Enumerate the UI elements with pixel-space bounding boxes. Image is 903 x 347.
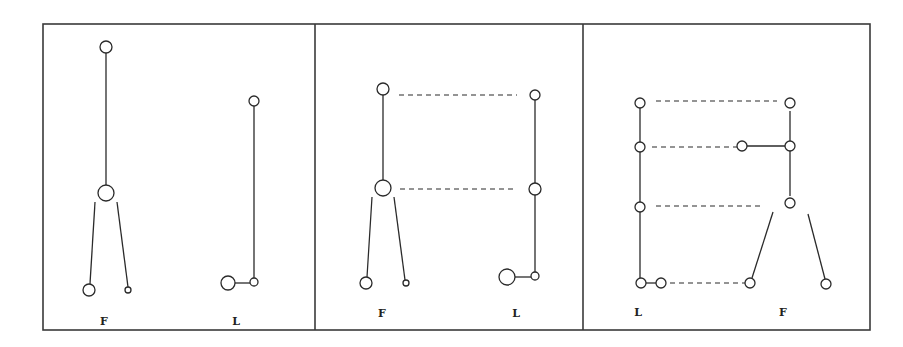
joint-node-circle [403, 280, 409, 286]
figure-label-l: L [512, 307, 520, 320]
link-line [90, 202, 95, 284]
joint-node-circle [360, 277, 372, 289]
joint-node-circle [375, 180, 391, 196]
joint-node-circle [249, 96, 259, 106]
stick-figure-diagram: FL FL LF [0, 0, 903, 347]
figure-label-f: F [779, 306, 787, 319]
figure-label-f: F [378, 307, 386, 320]
link-line [394, 197, 405, 280]
joint-node-circle [821, 279, 831, 289]
panel-3-mirrored-state: LF [634, 98, 831, 319]
joint-node-circle [785, 198, 795, 208]
joint-node-circle [98, 185, 114, 201]
panel-1-initial-state: FL [83, 41, 259, 328]
panel-2-aligned-state: FL [360, 83, 541, 320]
joint-node-circle [635, 202, 645, 212]
figure-label-l: L [232, 315, 240, 328]
joint-node-circle [530, 90, 540, 100]
joint-node-circle [737, 141, 747, 151]
joint-node-circle [531, 272, 539, 280]
joint-node-circle [785, 98, 795, 108]
joint-node-circle [636, 278, 646, 288]
diagram-canvas: FL FL LF [0, 0, 903, 347]
link-line [808, 214, 825, 279]
joint-node-circle [635, 142, 645, 152]
joint-node-circle [250, 278, 258, 286]
joint-node-circle [635, 98, 645, 108]
joint-node-circle [529, 183, 541, 195]
joint-node-circle [745, 278, 755, 288]
joint-node-circle [656, 278, 666, 288]
link-line [117, 202, 128, 287]
joint-node-circle [83, 284, 95, 296]
joint-node-circle [221, 276, 235, 290]
link-line [752, 212, 773, 278]
figure-label-f: F [100, 315, 108, 328]
panel-dividers [315, 24, 583, 330]
joint-node-circle [785, 141, 795, 151]
figure-label-l: L [634, 306, 642, 319]
joint-node-circle [499, 269, 515, 285]
joint-node-circle [377, 83, 389, 95]
joint-node-circle [100, 41, 112, 53]
link-line [367, 197, 372, 277]
joint-node-circle [125, 287, 131, 293]
